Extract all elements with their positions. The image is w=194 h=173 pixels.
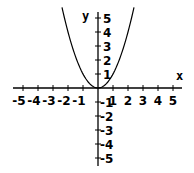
- y-tick-label: -5: [100, 152, 113, 166]
- y-tick-label: 2: [103, 54, 111, 68]
- x-tick-label: 3: [139, 94, 147, 108]
- x-tick-label: -4: [27, 94, 40, 108]
- parabola-graph: -5-4-3-2-112345 54321-1-2-3-4-5 x y: [0, 0, 194, 173]
- y-tick-label: -4: [100, 138, 113, 152]
- y-tick-label: 4: [103, 26, 111, 40]
- y-tick-label: 5: [103, 12, 111, 26]
- x-tick-label: 2: [124, 94, 132, 108]
- x-axis-label: x: [176, 69, 183, 83]
- x-tick-label: -5: [12, 94, 25, 108]
- y-axis-label: y: [82, 9, 89, 23]
- y-tick-label: -1: [100, 96, 113, 110]
- x-tick-label: 5: [169, 94, 177, 108]
- x-tick-label: -2: [57, 94, 70, 108]
- y-tick-label: -3: [100, 124, 113, 138]
- y-tick-label: 3: [103, 40, 111, 54]
- x-tick-label: -3: [42, 94, 55, 108]
- x-tick-label: 4: [154, 94, 162, 108]
- y-tick-label: -2: [100, 110, 113, 124]
- x-tick-label: -1: [72, 94, 85, 108]
